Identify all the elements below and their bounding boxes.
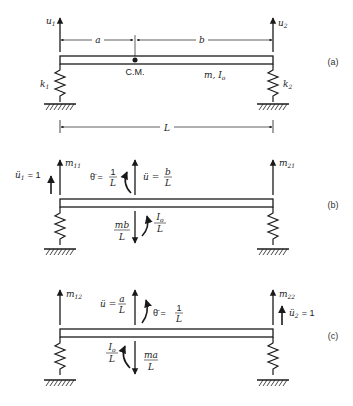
svg-text:L: L (164, 178, 171, 188)
u1-label: u1 (46, 16, 56, 27)
svg-text:1: 1 (110, 167, 115, 177)
m21-label: m21 (279, 158, 295, 169)
spring-left-icon (55, 337, 65, 375)
length-label: L (163, 123, 170, 133)
m22-label: m22 (279, 289, 295, 300)
cm-accel-label: ü = (143, 172, 159, 182)
svg-text:Io: Io (107, 342, 116, 353)
ground-left-icon (44, 380, 76, 386)
svg-text:1: 1 (176, 303, 181, 313)
panel-tag-b: (b) (328, 200, 339, 210)
svg-text:ma: ma (144, 350, 158, 360)
accel-u1-label: ü1= 1 (15, 170, 40, 181)
svg-text:L: L (108, 354, 115, 364)
beam-diagram: u1 u2 a b C.M. m, Io k1 k2 L (a) (0, 0, 353, 406)
theta-accel-label: θ̈ = (90, 172, 103, 182)
mass-label: m, Io (204, 70, 226, 81)
svg-text:L: L (118, 232, 125, 242)
spring-right-icon (268, 207, 278, 245)
spring-right-icon (268, 337, 278, 375)
svg-text:L: L (175, 314, 182, 324)
inertia-moment-arrow-icon (123, 346, 130, 368)
m12-label: m12 (66, 289, 82, 300)
rotation-arrow-icon (142, 300, 147, 323)
svg-text:mb: mb (115, 220, 130, 230)
u2-label: u2 (278, 18, 288, 29)
svg-text:b: b (165, 167, 171, 177)
svg-text:a: a (119, 294, 124, 304)
ground-right-icon (257, 380, 289, 386)
cm-accel-label: ü = (100, 299, 116, 309)
ground-left-icon (44, 104, 76, 110)
beam (60, 199, 273, 207)
dim-b-label: b (199, 35, 205, 45)
svg-text:L: L (147, 362, 154, 372)
dim-a-label: a (95, 35, 100, 45)
panel-tag-c: (c) (328, 331, 339, 341)
svg-text:L: L (109, 178, 116, 188)
ground-right-icon (257, 249, 289, 255)
center-of-mass-dot (133, 58, 138, 63)
ground-left-icon (44, 249, 76, 255)
k2-label: k2 (283, 79, 292, 90)
spring-left-icon (55, 207, 65, 245)
spring-k2-icon (268, 64, 278, 102)
spring-k1-icon (55, 64, 65, 102)
accel-u2-label: ü2= 1 (289, 308, 314, 319)
cm-label: C.M. (126, 67, 145, 77)
svg-text:Io: Io (155, 212, 164, 223)
beam (60, 329, 273, 337)
svg-text:L: L (118, 305, 125, 315)
panel-b: ü1= 1 m11 θ̈ = 1 L ü = b L m21 mb L Io L… (15, 158, 339, 255)
panel-a: u1 u2 a b C.M. m, Io k1 k2 L (a) (40, 16, 339, 133)
m11-label: m11 (65, 158, 81, 169)
theta-accel-label: θ̈ = (153, 308, 166, 318)
svg-text:L: L (156, 224, 163, 234)
beam (60, 56, 273, 64)
panel-tag-a: (a) (328, 57, 339, 67)
panel-c: m12 ü = a L θ̈ = 1 L m22 ü2= 1 Io L ma L… (44, 289, 338, 386)
ground-right-icon (257, 104, 289, 110)
rotation-arrow-icon (125, 172, 131, 193)
inertia-moment-arrow-icon (142, 216, 148, 236)
k1-label: k1 (40, 79, 49, 90)
